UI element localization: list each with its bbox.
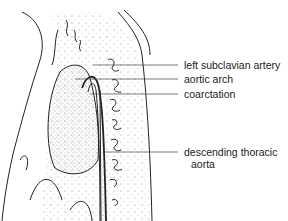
label-left-subclavian-artery: left subclavian artery: [184, 59, 280, 71]
label-coarctation: coarctation: [184, 88, 235, 100]
label-aorta: aorta: [191, 158, 215, 170]
anatomy-drawing: [0, 0, 288, 221]
label-descending-thoracic: descending thoracic: [184, 146, 277, 158]
anatomy-diagram: left subclavian artery aortic arch coarc…: [0, 0, 288, 221]
label-aortic-arch: aortic arch: [184, 73, 233, 85]
